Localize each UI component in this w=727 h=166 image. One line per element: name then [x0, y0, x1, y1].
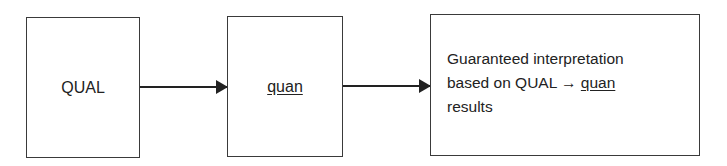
qual-label: QUAL [61, 79, 105, 97]
result-line-3: results [447, 95, 624, 119]
result-text: Guaranteed interpretation based on QUAL … [447, 47, 624, 119]
result-line-2: based on QUAL → quan [447, 71, 624, 95]
quan-label: quan [267, 78, 303, 96]
right-arrow-icon: → [561, 74, 577, 91]
result-line-2-text: based on QUAL [447, 74, 557, 91]
quan-box: quan [227, 16, 343, 157]
arrow-qual-to-quan [140, 86, 227, 88]
result-box: Guaranteed interpretation based on QUAL … [430, 14, 700, 156]
result-line-1: Guaranteed interpretation [447, 47, 624, 71]
result-quan-label: quan [581, 74, 615, 91]
qual-box: QUAL [26, 17, 140, 158]
arrow-quan-to-result [343, 85, 430, 87]
